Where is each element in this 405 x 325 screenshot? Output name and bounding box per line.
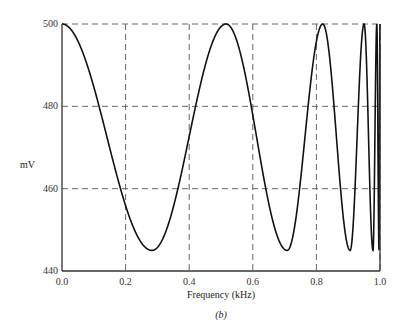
response-curve <box>62 24 380 250</box>
y-tick-label: 440 <box>43 265 58 276</box>
y-tick-label: 460 <box>43 183 58 194</box>
x-tick-label: 0.6 <box>247 276 260 287</box>
x-tick-labels: 0.00.20.40.60.81.0 <box>56 276 387 287</box>
chart: 440460480500 0.00.20.40.60.81.0 mV Frequ… <box>0 0 405 325</box>
y-axis-label: mV <box>20 159 36 170</box>
figure-caption: (b) <box>215 309 227 321</box>
x-tick-label: 0.2 <box>119 276 132 287</box>
y-tick-labels: 440460480500 <box>43 18 58 276</box>
y-tick-label: 500 <box>43 18 58 29</box>
x-axis-label: Frequency (kHz) <box>187 289 255 301</box>
y-tick-label: 480 <box>43 100 58 111</box>
x-tick-label: 0.4 <box>183 276 196 287</box>
x-tick-label: 0.0 <box>56 276 69 287</box>
x-tick-label: 1.0 <box>374 276 387 287</box>
x-tick-label: 0.8 <box>310 276 323 287</box>
